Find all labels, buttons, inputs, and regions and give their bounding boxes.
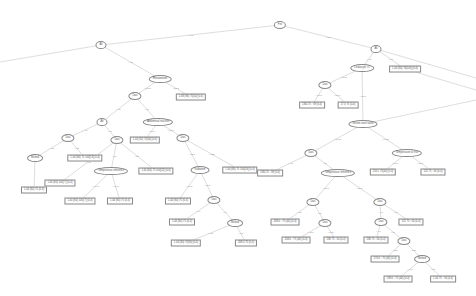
edge-label: < 37.6	[392, 161, 399, 164]
edge-label: > 0.5	[325, 36, 330, 39]
split-node: Dias	[128, 92, 141, 100]
edge-label: > 68.1	[167, 129, 174, 132]
edge-label: > 57	[134, 154, 139, 157]
edge-label: < 18	[86, 160, 91, 163]
split-node: Dias	[110, 136, 123, 144]
tree-edge	[0, 45, 101, 62]
edge-label: < 86	[116, 108, 121, 111]
split-node: Temperature reference	[321, 169, 355, 177]
edge-label: < 50.5	[144, 86, 151, 89]
split-node: Dias	[318, 219, 331, 227]
edge-label: > 46.26	[381, 137, 389, 140]
split-node: Dias	[61, 134, 74, 142]
split-node: Dias	[397, 237, 410, 245]
leaf-node: 208.0 : 75 (40) (0.4)	[282, 237, 311, 244]
split-node: Melted	[414, 255, 430, 263]
leaf-node: 1.68 (86) 75[54] (0.4)	[176, 94, 206, 101]
edge-label: > 68.5	[204, 184, 211, 187]
split-node: Rheumatism	[149, 75, 172, 83]
leaf-node: 138.0 : 75 (40) (0.4)	[384, 276, 413, 283]
edge-label: < 97	[378, 211, 383, 214]
split-node: Leukocyte >1	[350, 64, 374, 72]
split-node: Abdominal reaction	[143, 118, 173, 126]
edge-label: > 0.5	[238, 232, 243, 235]
split-node: Alt	[96, 118, 107, 126]
edge-label: > 36.8	[356, 186, 363, 189]
edge-label: > 152	[208, 153, 214, 156]
tree-edge	[363, 100, 476, 124]
edge-label: < 78.5	[315, 94, 322, 97]
leaf-node: 170.0 : 75 (40) (0.4)	[371, 256, 400, 263]
edge-label: > 108	[327, 230, 333, 233]
split-node: Temperature at rise	[392, 149, 422, 157]
edge-label: < 46.26	[333, 137, 341, 140]
edge-label: > 69.5	[112, 185, 119, 188]
edge-label: < 36.8	[322, 186, 329, 189]
leaf-node: 1.44 (84) 75[90] (0.4)	[171, 240, 201, 247]
edge-label: > 85	[74, 147, 79, 150]
split-node: Melted	[27, 154, 43, 162]
edge-label: > 113	[410, 249, 416, 252]
leaf-node: 208.0 : 75 (40) (0.4)	[271, 219, 300, 226]
edge-label: < 10.5	[340, 75, 347, 78]
split-node: Alt	[95, 41, 106, 49]
edge-label: > 74	[390, 230, 395, 233]
leaf-node: 1.44 (84) 75 100[16] (0.4)	[222, 167, 257, 174]
leaf-node: 208.0 75 (0.4)	[235, 240, 257, 247]
split-node: Dias	[374, 218, 387, 226]
edge-label: < 0.5	[407, 268, 412, 271]
edge-label: < 69.5	[92, 185, 99, 188]
split-node: Kalbkrem	[191, 166, 210, 174]
leaf-node: 1.44 (84) 75 (0.4)	[165, 198, 191, 205]
edge-label: < 17	[128, 61, 133, 64]
leaf-node: 125 75 : 56 (0.4)	[420, 169, 445, 176]
split-node: Dias	[318, 81, 331, 89]
leaf-node: 125 75 : 56 (0.4)	[398, 219, 423, 226]
edge-label: < 68.1	[148, 130, 155, 133]
edge-label: < 74	[376, 230, 381, 233]
edge-label: < 108	[307, 230, 313, 233]
edge-label: < 64	[196, 210, 201, 213]
leaf-node: 136L75 : 39 (0.4)	[257, 170, 283, 177]
leaf-node: 1.44 (84) 75 (0.4)	[107, 198, 133, 205]
leaf-node: 236 75 : 56 (0.4)	[363, 237, 388, 244]
leaf-node: 1.44 (92) 75[56] (0.4)	[130, 137, 160, 144]
split-node: Dias	[176, 134, 189, 142]
split-node: Serum stool ration	[348, 120, 377, 128]
edge-label: < 152	[188, 153, 194, 156]
edge-label: < 65	[297, 211, 302, 214]
edge-label: < 68.5	[186, 184, 193, 187]
edge-label: > 90	[322, 162, 327, 165]
leaf-node: 1.44 (84) 75 (0.4)	[169, 219, 195, 226]
split-node: Dias	[373, 198, 386, 206]
leaf-node: 1.44 (84) 75 100[13] (0.4)	[67, 155, 102, 162]
split-node: Dias	[207, 196, 220, 204]
decision-tree-canvas: FevAltAltRheumatism1.68 (86) 75[54] (0.4…	[0, 0, 476, 296]
leaf-node: 1.44 (84) 75 (0.4)	[21, 187, 47, 194]
leaf-node: 136L75 : 39 (0.4)	[299, 102, 325, 109]
edge-label: > 78.5	[333, 94, 340, 97]
edge-label: < 0.5	[188, 34, 193, 37]
tree-edge	[34, 158, 35, 190]
edge-label: > 37.6	[417, 161, 424, 164]
edge-label: > 50.5	[172, 87, 179, 90]
edge-label: > 10.5	[359, 95, 366, 98]
leaf-node: 1.44 (84) 100[ 7] (0.4)	[44, 180, 75, 187]
edge-label: > 86	[144, 108, 149, 111]
split-node: Fev	[274, 21, 286, 29]
leaf-node: 1.44 (84) 76[140] (0.4)	[389, 66, 421, 73]
split-node: Temperature reference	[94, 167, 128, 175]
leaf-node: 1.44 (84) 75 100[11] (0.4)	[138, 168, 173, 175]
edge-layer	[0, 0, 476, 296]
edge-label: > 40	[107, 130, 112, 133]
leaf-node: 17.0 75 (0.4)	[338, 102, 359, 109]
edge-label: > 0.5	[430, 268, 435, 271]
edge-label: < 57	[112, 154, 117, 157]
edge-label: < 61	[367, 57, 372, 60]
edge-label: > 61	[388, 58, 393, 61]
edge-label: < 40	[83, 129, 88, 132]
edge-label: < 85	[49, 147, 54, 150]
edge-label: > 64	[222, 210, 227, 213]
split-node: Melted	[227, 219, 243, 227]
leaf-node: 1.44 (84) 100[ 7] (0.4)	[64, 198, 95, 205]
